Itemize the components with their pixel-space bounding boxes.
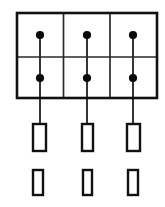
node-dot-column-3-bottom — [129, 74, 137, 82]
dot-row-lower — [36, 74, 137, 82]
element-rect-tall-column-2 — [82, 124, 93, 151]
diagram-canvas — [0, 0, 165, 207]
node-dot-column-3-top — [129, 31, 137, 39]
tall-rect-row — [33, 124, 140, 151]
dot-row-upper — [36, 31, 137, 39]
short-rect-row — [33, 170, 138, 195]
element-rect-short-column-3 — [128, 170, 138, 195]
node-dot-column-1-top — [36, 31, 44, 39]
element-rect-tall-column-1 — [33, 124, 46, 151]
element-rect-short-column-1 — [33, 170, 43, 195]
node-dot-column-2-bottom — [83, 74, 91, 82]
node-dot-column-2-top — [83, 31, 91, 39]
element-rect-tall-column-3 — [127, 124, 140, 151]
node-dot-column-1-bottom — [36, 74, 44, 82]
element-rect-short-column-2 — [83, 170, 92, 195]
diagram-svg — [0, 0, 165, 207]
